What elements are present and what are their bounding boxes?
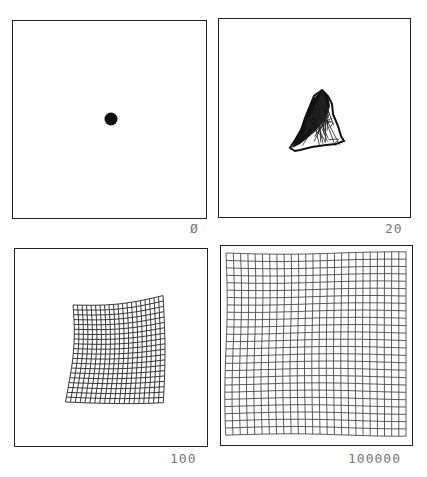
collapsed-node-dot [105, 113, 118, 126]
iteration-label-100000: 100000 [348, 451, 401, 466]
iteration-label-20: 20 [385, 221, 403, 236]
partially-unfolded-grid [66, 296, 166, 404]
plot-canvas [0, 0, 427, 477]
unfolded-regular-grid [225, 252, 406, 436]
tangled-grid-clump [290, 90, 344, 151]
iteration-label-0: Ø [190, 221, 199, 236]
iteration-label-100: 100 [170, 451, 196, 466]
